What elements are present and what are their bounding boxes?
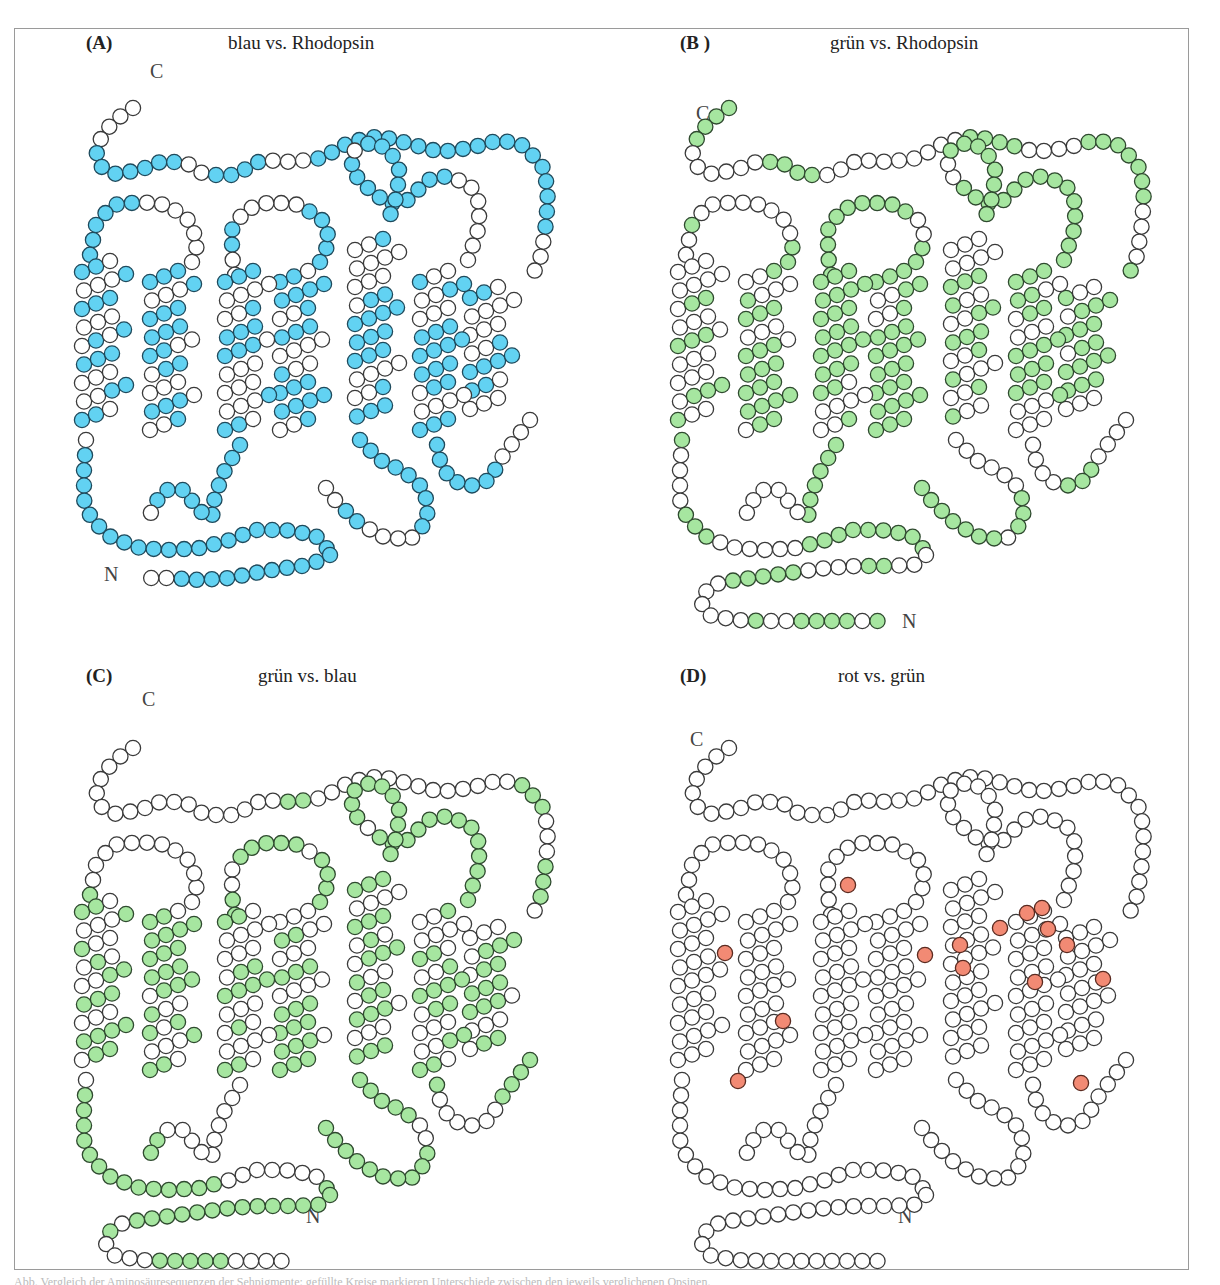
- residue-identical: [74, 375, 89, 390]
- residue-different: [231, 1020, 246, 1035]
- residue-different: [813, 348, 828, 363]
- residue-identical: [286, 306, 301, 321]
- residue-different: [1135, 174, 1150, 189]
- residue-different: [312, 254, 327, 269]
- residue-different: [245, 300, 260, 315]
- residue-identical: [506, 292, 521, 307]
- residue-identical: [779, 1253, 794, 1268]
- residue-identical: [1024, 1038, 1039, 1053]
- residue-different: [1050, 332, 1065, 347]
- residue-identical: [490, 390, 505, 405]
- residue-identical: [1067, 834, 1082, 849]
- residue-identical: [672, 394, 687, 409]
- residue-different: [311, 151, 326, 166]
- residue-different: [211, 478, 226, 493]
- residue-identical: [74, 1052, 89, 1067]
- residue-identical: [102, 893, 117, 908]
- residue-identical: [876, 794, 891, 809]
- residue-identical: [347, 993, 362, 1008]
- residue-identical: [432, 1092, 447, 1107]
- residue-identical: [476, 322, 491, 337]
- residue-identical: [738, 274, 753, 289]
- residue-different: [274, 367, 289, 382]
- residue-different: [361, 311, 376, 326]
- residue-different: [684, 333, 699, 348]
- residue-identical: [840, 1253, 855, 1268]
- residue-identical: [870, 836, 885, 851]
- residue-identical: [841, 940, 856, 955]
- residue-different: [1007, 139, 1022, 154]
- residue-different: [1036, 337, 1051, 352]
- residue-identical: [391, 995, 406, 1010]
- residue-different: [1136, 189, 1151, 204]
- residue-different: [914, 480, 929, 495]
- residue-identical: [740, 1211, 755, 1226]
- residue-identical: [440, 300, 455, 315]
- residue-identical: [725, 1213, 740, 1228]
- residue-identical: [803, 1132, 818, 1147]
- residue-different: [827, 269, 842, 284]
- residue-different: [1066, 224, 1081, 239]
- residue-different: [456, 1027, 471, 1042]
- residue-different: [311, 1197, 326, 1212]
- residue-identical: [782, 1027, 797, 1042]
- residue-identical: [152, 795, 167, 810]
- residue-different: [217, 348, 232, 363]
- residue-identical: [870, 1253, 885, 1268]
- residue-identical: [462, 401, 477, 416]
- residue-identical: [882, 909, 897, 924]
- residue-identical: [1008, 422, 1023, 437]
- residue-different: [172, 959, 187, 974]
- residue-identical: [802, 1177, 817, 1192]
- residue-different: [476, 359, 491, 374]
- residue-identical: [829, 1001, 844, 1016]
- residue-identical: [527, 263, 542, 278]
- residue-identical: [208, 807, 223, 822]
- residue-identical: [442, 922, 457, 937]
- residue-different: [428, 324, 443, 339]
- residue-different: [167, 154, 182, 169]
- residue-different: [89, 146, 104, 161]
- residue-identical: [943, 783, 958, 798]
- residue-different: [824, 613, 839, 628]
- residue-identical: [821, 892, 836, 907]
- residue-identical: [945, 1049, 960, 1064]
- residue-identical: [1102, 932, 1117, 947]
- residue-identical: [986, 817, 1001, 832]
- residue-different: [476, 962, 491, 977]
- residue-different: [766, 263, 781, 278]
- residue-identical: [870, 293, 885, 308]
- residue-identical: [831, 1167, 846, 1182]
- residue-identical: [1036, 940, 1051, 955]
- residue-different: [102, 290, 117, 305]
- residue-identical: [672, 320, 687, 335]
- residue-identical: [987, 1171, 1002, 1186]
- residue-identical: [827, 417, 842, 432]
- residue-identical: [957, 988, 972, 1003]
- residue-different: [536, 874, 551, 889]
- residue-different: [375, 305, 390, 320]
- residue-different: [442, 959, 457, 974]
- residue-identical: [414, 1007, 429, 1022]
- residue-identical: [363, 895, 378, 910]
- residue-different: [535, 159, 550, 174]
- residue-different: [300, 1051, 315, 1066]
- residue-identical: [1123, 903, 1138, 918]
- residue-different: [161, 1182, 176, 1197]
- residue-different: [103, 529, 118, 544]
- residue-identical: [1060, 309, 1075, 324]
- residue-identical: [815, 1044, 830, 1059]
- residue-different: [280, 794, 295, 809]
- residue-different: [426, 143, 441, 158]
- residue-identical: [831, 1200, 846, 1215]
- residue-identical: [882, 983, 897, 998]
- residue-identical: [973, 361, 988, 376]
- residue-different: [231, 343, 246, 358]
- residue-identical: [817, 1173, 832, 1188]
- residue-identical: [224, 807, 239, 822]
- residue-identical: [391, 355, 406, 370]
- residue-different: [442, 1033, 457, 1048]
- residue-different: [137, 160, 152, 175]
- residue-identical: [841, 1051, 856, 1066]
- residue-identical: [898, 922, 913, 937]
